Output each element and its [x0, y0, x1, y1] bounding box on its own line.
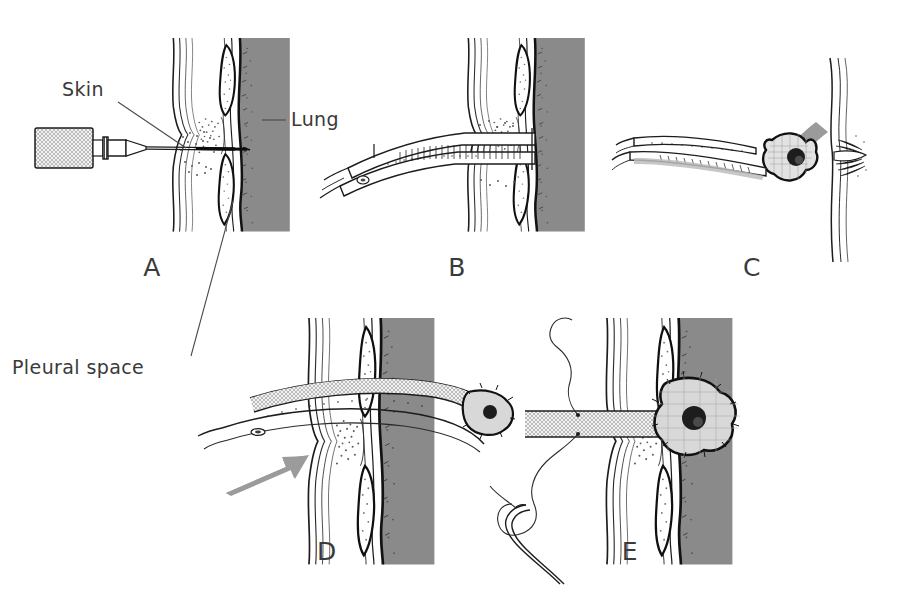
panel-letter-a: A	[143, 253, 161, 282]
panel-letter-d: D	[317, 537, 337, 566]
figure-root: A Skin Lung Pleural space	[0, 0, 904, 593]
panel-letter-c: C	[743, 253, 761, 282]
label-skin: Skin	[62, 78, 104, 100]
panel-letter-b: B	[448, 253, 466, 282]
label-pleural-space: Pleural space	[12, 356, 144, 378]
chest-tube-illustration: A Skin Lung Pleural space	[0, 0, 904, 593]
panel-letter-e: E	[622, 537, 638, 566]
label-lung: Lung	[291, 108, 339, 130]
figure-background	[0, 0, 904, 593]
